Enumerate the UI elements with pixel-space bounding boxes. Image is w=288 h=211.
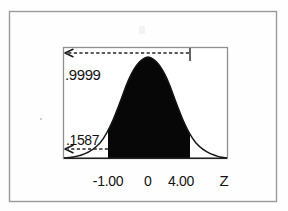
- axis-tick-label-four: 4.00: [168, 173, 195, 189]
- axis-tick-label-zero: 0: [144, 173, 152, 189]
- axis-tick-label-minus-one: -1.00: [93, 173, 124, 189]
- figure-canvas: .9999 .1587 -1.00 0 4.00 Z: [0, 0, 288, 211]
- normal-distribution-figure: .9999 .1587 -1.00 0 4.00 Z: [0, 0, 288, 211]
- lower-probability-label: .1587: [66, 132, 100, 148]
- axis-title-z: Z: [219, 172, 228, 189]
- upper-probability-label: .9999: [65, 66, 101, 83]
- scan-speck: [40, 118, 42, 120]
- scan-smudge: [139, 26, 145, 34]
